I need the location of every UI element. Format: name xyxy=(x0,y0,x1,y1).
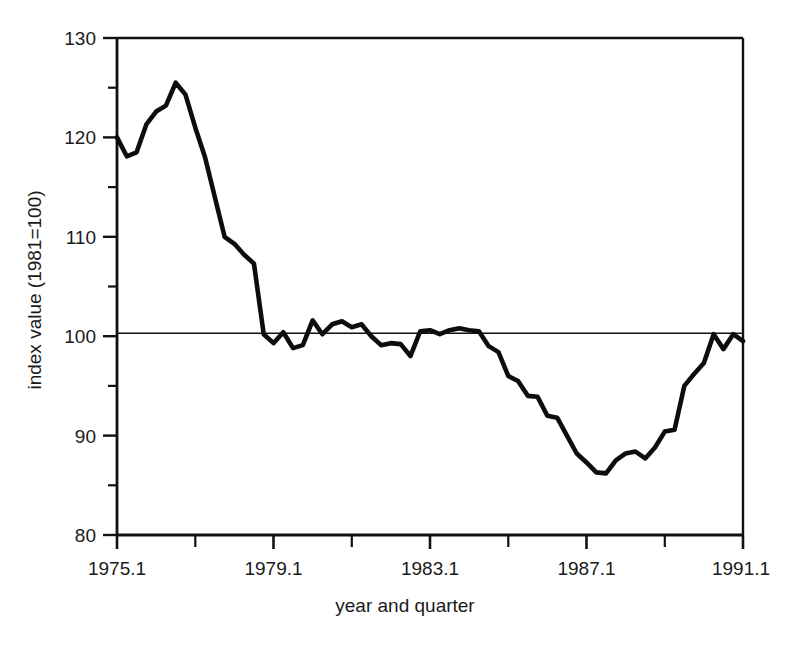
x-tick-labels: 1975.1 1979.1 1983.1 1987.1 1991.1 xyxy=(88,558,770,579)
y-tick-label-110: 110 xyxy=(66,227,96,248)
x-tick-label-1979: 1979.1 xyxy=(244,558,302,579)
y-tick-labels: 130 120 110 100 90 80 xyxy=(64,28,96,546)
plot-frame xyxy=(117,38,743,535)
y-axis-title: index value (1981=100) xyxy=(24,190,45,389)
x-tick-label-1991: 1991.1 xyxy=(712,558,770,579)
y-axis-ticks xyxy=(103,38,117,535)
x-tick-label-1975: 1975.1 xyxy=(88,558,146,579)
chart-figure: 130 120 110 100 90 80 1975.1 1979.1 1983… xyxy=(0,0,790,647)
y-tick-label-90: 90 xyxy=(75,426,96,447)
x-tick-label-1987: 1987.1 xyxy=(557,558,615,579)
y-tick-label-120: 120 xyxy=(64,127,96,148)
y-tick-label-100: 100 xyxy=(64,326,96,347)
y-tick-label-130: 130 xyxy=(64,28,96,49)
line-chart: 130 120 110 100 90 80 1975.1 1979.1 1983… xyxy=(0,0,790,647)
x-axis-title: year and quarter xyxy=(335,595,475,616)
y-tick-label-80: 80 xyxy=(75,525,96,546)
data-series-line xyxy=(117,83,743,474)
x-axis-ticks xyxy=(117,535,743,549)
x-tick-label-1983: 1983.1 xyxy=(401,558,459,579)
